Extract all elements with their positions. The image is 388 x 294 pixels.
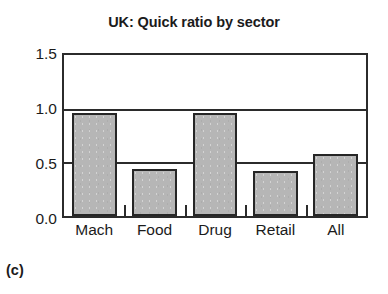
x-axis-tick-4 [306, 205, 308, 216]
x-axis-tick-3 [245, 205, 247, 216]
y-axis-tick-label-1.5: 1.5 [9, 46, 57, 62]
bar-retail[interactable] [253, 171, 298, 216]
figure-panel-c: UK: Quick ratio by sector 1.5 1.0 0.5 0.… [0, 0, 388, 294]
figure-caption: (c) [6, 262, 24, 278]
x-axis-label-food: Food [124, 222, 184, 238]
bar-all[interactable] [313, 154, 358, 216]
x-axis-label-drug: Drug [185, 222, 245, 238]
x-axis-tick-1 [124, 205, 126, 216]
plot-inner [64, 55, 366, 216]
bar-food[interactable] [132, 169, 177, 216]
x-axis-label-mach: Mach [64, 222, 124, 238]
plot-area [62, 53, 368, 218]
x-axis-label-all: All [306, 222, 366, 238]
x-axis-tick-2 [185, 205, 187, 216]
bar-drug[interactable] [193, 113, 238, 216]
y-axis-tick-label-1.0: 1.0 [9, 101, 57, 117]
x-axis-label-retail: Retail [245, 222, 305, 238]
y-axis-tick-label-0.5: 0.5 [9, 156, 57, 172]
gridline-1.0 [64, 109, 366, 111]
y-axis-tick-label-0.0: 0.0 [9, 211, 57, 227]
chart-title: UK: Quick ratio by sector [0, 14, 388, 30]
bar-mach[interactable] [72, 113, 117, 216]
